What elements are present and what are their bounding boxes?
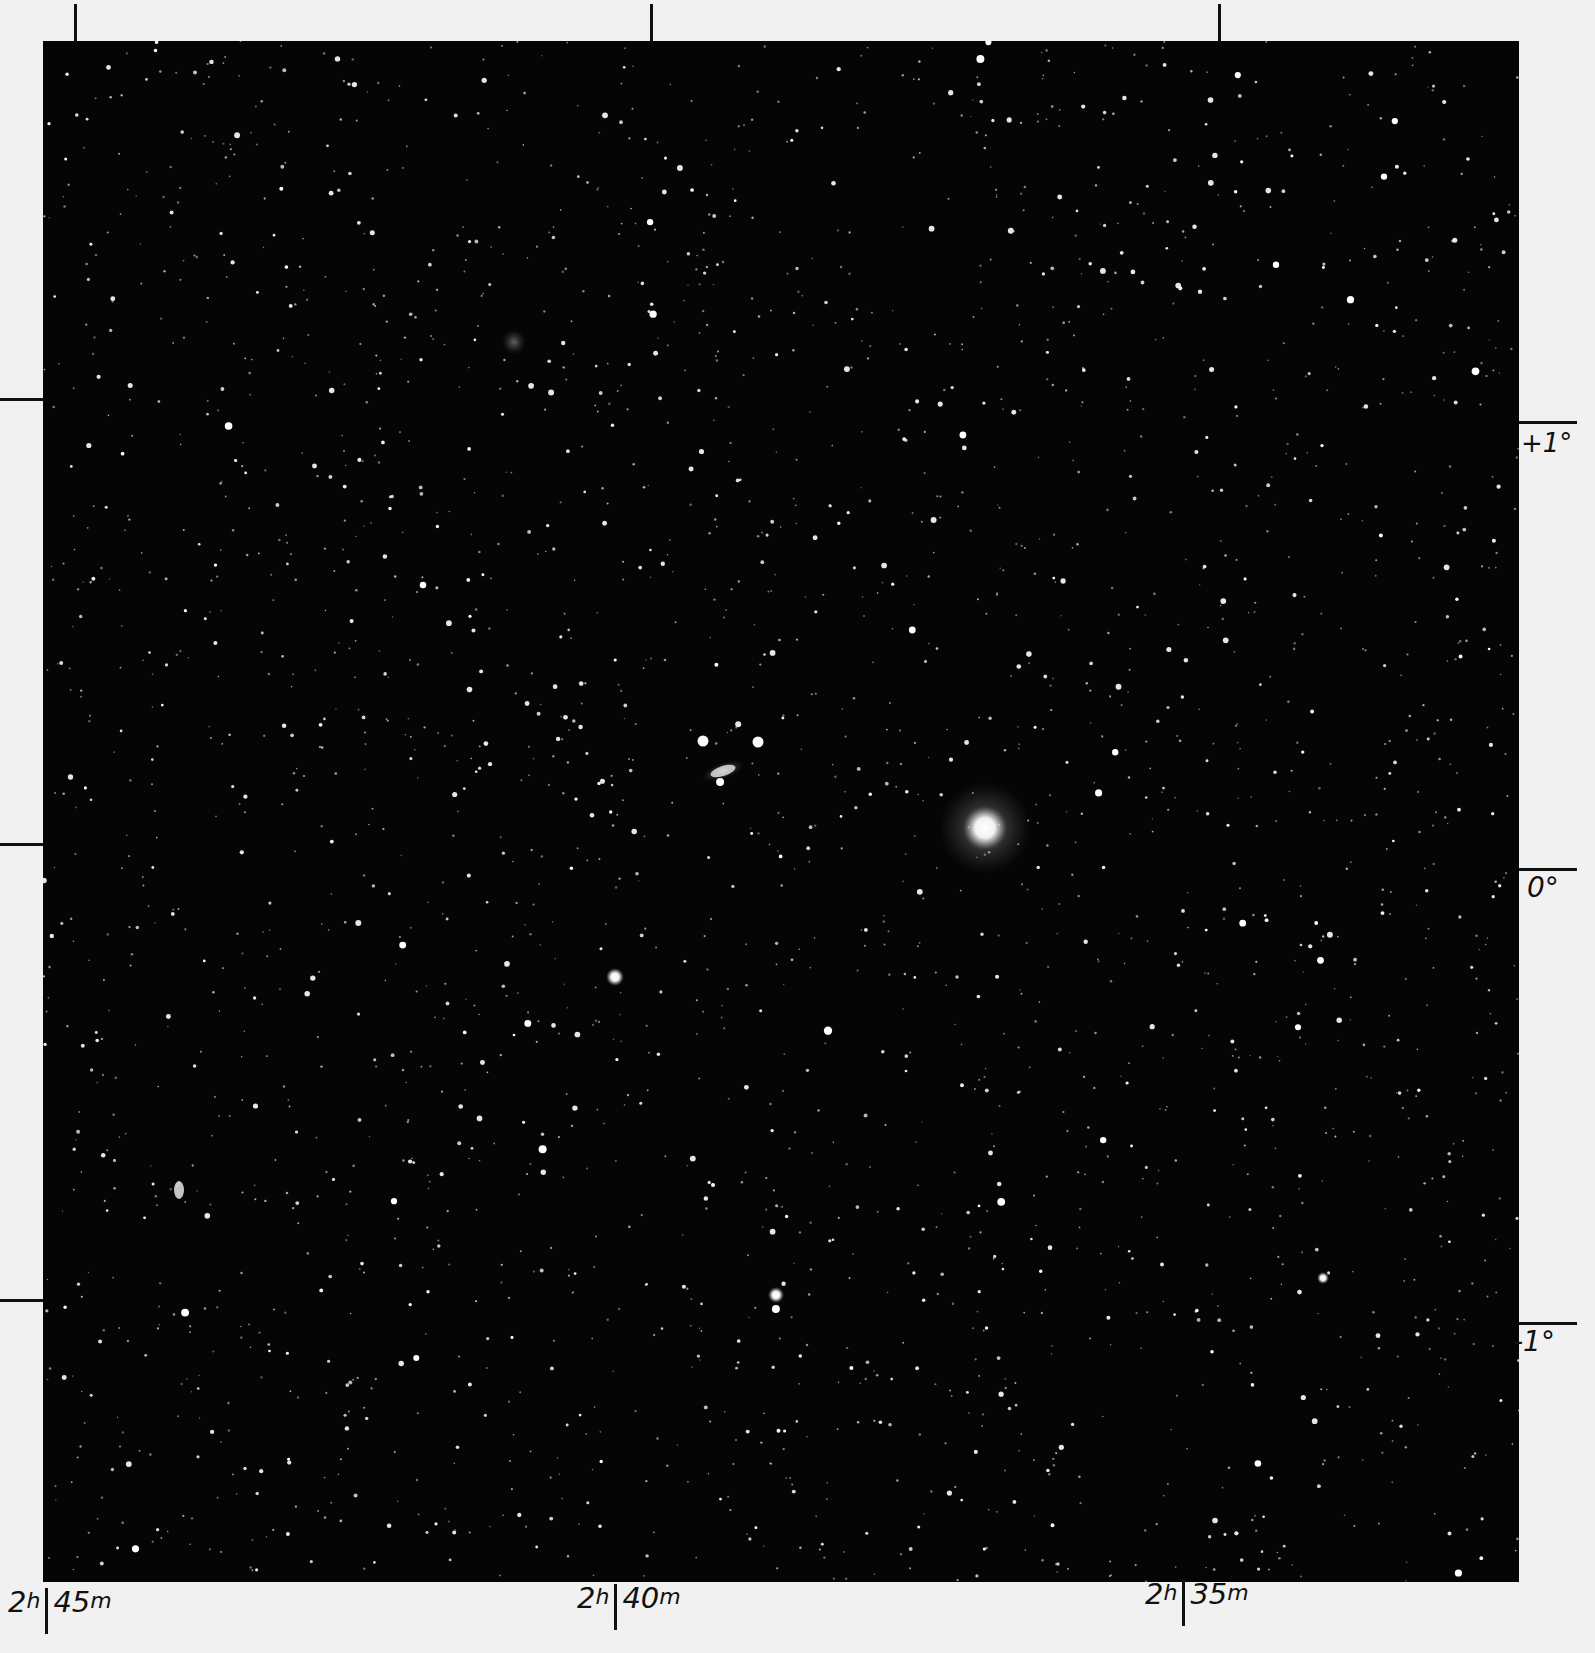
ra-label-2h45m: 2h 45m <box>8 1588 112 1634</box>
dec-label-0: 0° <box>1527 874 1559 902</box>
star-bright-left <box>606 968 624 986</box>
star-field <box>43 41 1519 1582</box>
stars-layer <box>43 41 1519 1582</box>
dec-label-plus1: +1° <box>1521 430 1572 456</box>
galaxy-upper-left <box>502 330 526 354</box>
ra-tick-2h35m <box>1182 1580 1185 1626</box>
dec-left-tick-plus1 <box>0 398 44 401</box>
bright-star-center-core <box>963 806 1007 850</box>
ra-top-tick-2h45m <box>74 4 77 42</box>
ra-top-tick-2h40m <box>650 4 653 42</box>
features-layer <box>174 330 1329 1303</box>
ra-tick-2h40m <box>614 1584 617 1630</box>
dec-left-tick-0 <box>0 843 44 846</box>
dec-label-minus1: -1° <box>1513 1328 1555 1356</box>
star-field-plate <box>43 41 1519 1582</box>
dec-right-tick-plus1 <box>1517 421 1577 424</box>
star-bright-lower <box>768 1287 784 1303</box>
star-pair-a <box>698 736 709 747</box>
dec-left-tick-minus1 <box>0 1299 44 1302</box>
star-bright-right-lower <box>1317 1272 1329 1284</box>
ra-tick-2h45m <box>45 1588 48 1634</box>
ra-label-2h35m: 2h 35m <box>1145 1580 1249 1626</box>
ra-top-tick-2h35m <box>1218 4 1221 42</box>
galaxy-left <box>174 1181 184 1199</box>
star-pair-b <box>753 737 764 748</box>
ra-label-2h40m: 2h 40m <box>577 1584 681 1630</box>
